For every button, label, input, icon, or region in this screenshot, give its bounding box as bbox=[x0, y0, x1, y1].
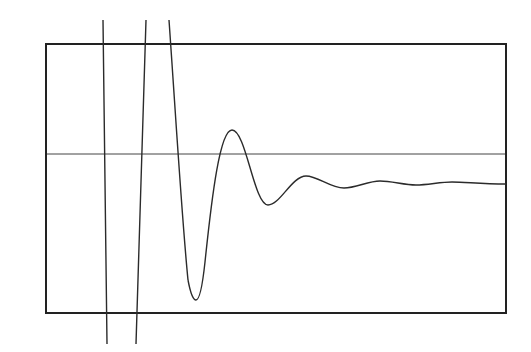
ratio-curve bbox=[188, 130, 506, 300]
plot-frame bbox=[46, 44, 506, 313]
fibonacci-ratio-chart bbox=[0, 0, 531, 352]
ratio-curve-offscale-segments bbox=[103, 20, 188, 344]
